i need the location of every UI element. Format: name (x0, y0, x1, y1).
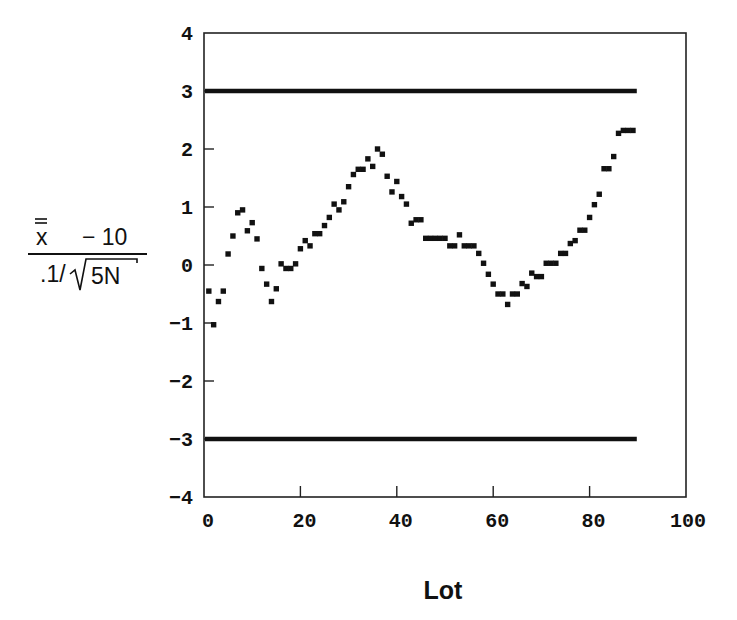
data-point (466, 243, 471, 248)
data-point (611, 154, 616, 159)
plot-frame (204, 33, 686, 497)
data-point (250, 220, 255, 225)
data-point (447, 243, 452, 248)
data-point (331, 201, 336, 206)
data-point (399, 194, 404, 199)
data-point (303, 238, 308, 243)
data-point (206, 288, 211, 293)
data-point (428, 236, 433, 241)
data-point (606, 166, 611, 171)
y-tick-label: −3 (169, 429, 193, 452)
data-point (495, 291, 500, 296)
data-point (423, 236, 428, 241)
data-point (404, 201, 409, 206)
x-tick-label: 100 (670, 510, 706, 533)
data-point (433, 236, 438, 241)
y-axis-label: x − 10 .1/ 5N (28, 219, 147, 290)
data-point (582, 228, 587, 233)
data-point (534, 274, 539, 279)
data-point (519, 281, 524, 286)
data-point (524, 284, 529, 289)
data-point (486, 272, 491, 277)
data-point (346, 184, 351, 189)
data-point (597, 192, 602, 197)
control-chart: 43210−1−2−3−4 020406080100 Lot x − 10 .1… (0, 0, 737, 620)
data-point (384, 174, 389, 179)
data-point (577, 228, 582, 233)
data-point (380, 152, 385, 157)
data-point (625, 128, 630, 133)
y-tick-label: −2 (169, 371, 193, 394)
data-point (269, 299, 274, 304)
data-point (240, 207, 245, 212)
x-axis-ticks: 020406080100 (202, 486, 706, 533)
data-point (558, 251, 563, 256)
data-point (539, 274, 544, 279)
data-point (510, 291, 515, 296)
data-point (442, 236, 447, 241)
data-point (312, 231, 317, 236)
data-points (206, 128, 636, 328)
data-point (563, 251, 568, 256)
data-point (211, 322, 216, 327)
data-point (515, 291, 520, 296)
data-point (317, 231, 322, 236)
data-point (225, 251, 230, 256)
data-point (572, 238, 577, 243)
data-point (481, 261, 486, 266)
y-tick-label: −1 (169, 313, 193, 336)
y-tick-label: 0 (181, 255, 193, 278)
data-point (437, 236, 442, 241)
data-point (327, 215, 332, 220)
x-tick-label: 40 (389, 510, 413, 533)
data-point (544, 261, 549, 266)
data-point (274, 286, 279, 291)
data-point (452, 243, 457, 248)
data-point (216, 299, 221, 304)
x-tick-label: 80 (582, 510, 606, 533)
data-point (413, 217, 418, 222)
data-point (259, 266, 264, 271)
data-point (288, 266, 293, 271)
data-point (254, 236, 259, 241)
data-point (592, 202, 597, 207)
data-point (476, 251, 481, 256)
data-point (471, 243, 476, 248)
data-point (356, 167, 361, 172)
data-point (462, 243, 467, 248)
data-point (491, 281, 496, 286)
data-point (394, 179, 399, 184)
data-point (621, 128, 626, 133)
data-point (418, 217, 423, 222)
data-point (630, 128, 635, 133)
data-point (293, 261, 298, 266)
data-point (457, 232, 462, 237)
data-point (298, 246, 303, 251)
data-point (235, 210, 240, 215)
data-point (360, 167, 365, 172)
y-tick-label: 1 (181, 197, 193, 220)
y-label-minus-ten: − 10 (82, 224, 127, 250)
y-label-denominator-prefix: .1/ (40, 261, 66, 287)
data-point (601, 166, 606, 171)
x-tick-label: 20 (292, 510, 316, 533)
x-axis-label: Lot (424, 576, 464, 604)
data-point (500, 291, 505, 296)
data-point (245, 228, 250, 233)
y-tick-label: 3 (181, 81, 193, 104)
data-point (389, 189, 394, 194)
x-tick-label: 0 (202, 510, 214, 533)
data-point (568, 241, 573, 246)
data-point (616, 131, 621, 136)
data-point (307, 243, 312, 248)
data-point (529, 270, 534, 275)
data-point (375, 146, 380, 151)
data-point (283, 266, 288, 271)
y-label-xbar: x (36, 224, 48, 250)
data-point (264, 281, 269, 286)
data-point (221, 288, 226, 293)
y-label-radicand: 5N (91, 263, 120, 289)
data-point (370, 164, 375, 169)
data-point (548, 261, 553, 266)
data-point (230, 233, 235, 238)
